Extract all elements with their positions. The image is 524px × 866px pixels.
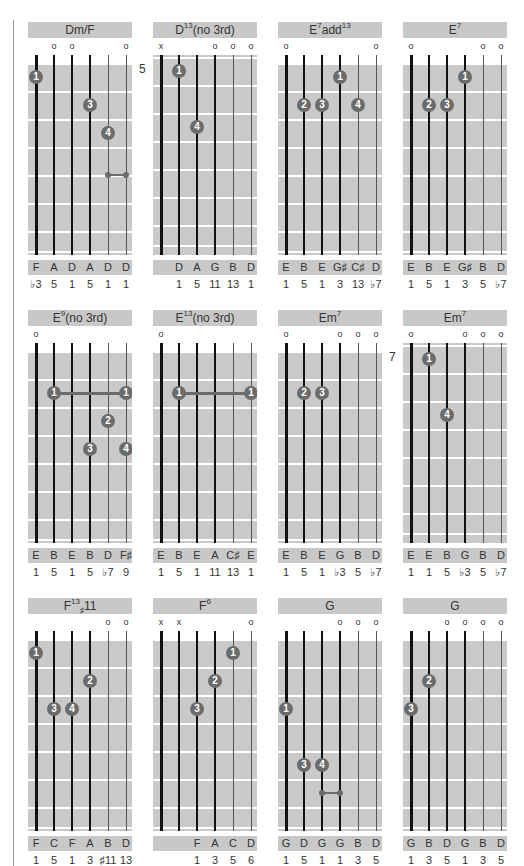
guitar-string (35, 55, 38, 255)
interval-degree: 5 (295, 277, 313, 292)
guitar-string (53, 55, 56, 255)
interval-degree: 1 (63, 277, 81, 292)
guitar-string (410, 343, 413, 543)
interval-degree: 5 (349, 565, 367, 580)
fret-line (153, 463, 257, 465)
finger-dot: 3 (404, 702, 418, 716)
fret-line (153, 141, 257, 143)
finger-dot: 1 (333, 70, 347, 84)
interval-degree: 5 (45, 853, 63, 866)
fret-position-label: 5 (139, 62, 146, 76)
note-name: C♯ (224, 548, 242, 563)
interval-degree: 11 (206, 565, 224, 580)
finger-dot: 1 (47, 386, 61, 400)
note-name: G♯ (456, 260, 474, 275)
interval-degree: 1 (242, 277, 260, 292)
finger-dot: 3 (297, 758, 311, 772)
interval-degree: ♭3 (27, 277, 45, 292)
nut (278, 343, 382, 351)
fret-line (153, 827, 257, 829)
guitar-string (464, 343, 466, 543)
open-string-marker: o (335, 328, 345, 340)
finger-dot: 4 (315, 758, 329, 772)
fret-line (403, 779, 507, 781)
guitar-string (53, 343, 56, 543)
fret-line (278, 667, 382, 669)
note-name: B (349, 836, 367, 851)
guitar-string (71, 631, 73, 831)
finger-dot: 1 (458, 70, 472, 84)
fretboard: 14 (403, 343, 507, 543)
interval-degree: 13 (349, 277, 367, 292)
fret-line (28, 203, 132, 205)
guitar-string (233, 55, 234, 255)
fret-line (28, 379, 132, 381)
chord-suffix: (no 3rd) (193, 23, 235, 37)
open-string-marker: o (496, 40, 506, 52)
guitar-string (71, 343, 73, 543)
finger-dot: 3 (190, 702, 204, 716)
fret-line (403, 639, 507, 641)
chord-diagram: E9(no 3rd)o11234EBEBDF♯1515♭79 (28, 310, 132, 580)
interval-degrees-row: 1515♭79 (28, 565, 132, 580)
note-name: G♯ (331, 260, 349, 275)
fret-line (153, 491, 257, 493)
open-string-marker: o (371, 40, 381, 52)
note-name: D (492, 548, 510, 563)
chord-name: Em7 (403, 310, 507, 326)
interval-degree: 5 (45, 565, 63, 580)
fret-line (403, 147, 507, 149)
chord-suffix: (no 3rd) (192, 311, 234, 325)
finger-dot: 3 (47, 702, 61, 716)
fret-line (153, 539, 257, 541)
interval-degree: 5 (474, 277, 492, 292)
open-string-marker: o (335, 616, 345, 628)
guitar-string (376, 631, 377, 831)
fret-line (278, 231, 382, 233)
interval-degree: 1 (277, 853, 295, 866)
interval-degree: ♭7 (99, 565, 117, 580)
open-string-marker: o (353, 616, 363, 628)
open-string-marker: o (49, 40, 59, 52)
note-name: A (81, 260, 99, 275)
interval-degree: 1 (438, 277, 456, 292)
fretboard: 1234 (28, 631, 132, 831)
chord-diagram: E13(no 3rd)o11EBEAC♯E15111131 (153, 310, 257, 580)
guitar-string (160, 631, 163, 831)
fret-line (403, 429, 507, 431)
open-string-marker: o (228, 40, 238, 52)
note-name: D (99, 260, 117, 275)
interval-degree: 1 (63, 565, 81, 580)
note-name: E (277, 260, 295, 275)
open-string-marker: o (460, 328, 470, 340)
finger-dot: 2 (422, 98, 436, 112)
partial-barre-dot (105, 172, 111, 178)
finger-dot: 1 (29, 70, 43, 84)
chord-root: D (175, 23, 184, 37)
interval-degree: 11 (206, 277, 224, 292)
note-name: F (27, 260, 45, 275)
interval-degree: 1 (313, 277, 331, 292)
interval-degree: 5 (438, 853, 456, 866)
interval-degree: 1 (117, 277, 135, 292)
chord-extension: 13 (71, 597, 80, 606)
chord-diagram: E7add13oo1234EBEG♯C♯D151313♭7 (278, 22, 382, 292)
guitar-string (251, 343, 252, 543)
fret-line (28, 147, 132, 149)
fret-line (403, 373, 507, 375)
chord-extension: 6 (206, 597, 210, 606)
interval-degree: 5 (224, 853, 242, 866)
fret-line (28, 639, 132, 641)
note-name: D (242, 836, 260, 851)
fret-line (28, 463, 132, 465)
fret-line (28, 779, 132, 781)
open-string-marker: o (478, 40, 488, 52)
note-name: E (438, 260, 456, 275)
fret-line (28, 667, 132, 669)
fret-line (153, 779, 257, 781)
fret-line (278, 91, 382, 93)
guitar-string (285, 55, 288, 255)
interval-degrees-row: 135135 (403, 853, 507, 866)
guitar-string (464, 55, 466, 255)
guitar-string (108, 631, 109, 831)
